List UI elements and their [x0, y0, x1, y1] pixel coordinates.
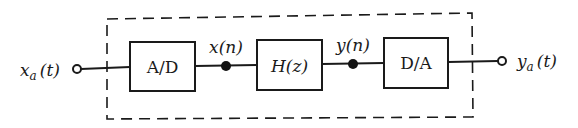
yn-signal-label: y(n): [335, 35, 370, 55]
output-wire: [448, 61, 498, 62]
output-signal-label: ya(t): [516, 51, 557, 74]
input-terminal: [73, 65, 81, 73]
xn-node: [221, 61, 231, 71]
output-terminal: [498, 57, 506, 65]
yn-node: [348, 59, 358, 69]
hz-block-label: H(z): [270, 56, 308, 76]
xn-signal-label: x(n): [209, 37, 243, 57]
dsp-block-diagram: xa(t) A/D x(n) H(z) y(n) D/A ya(t): [0, 0, 578, 128]
input-signal-label: xa(t): [20, 60, 60, 83]
da-block-label: D/A: [400, 53, 432, 73]
input-wire: [81, 67, 130, 69]
ad-block-label: A/D: [146, 57, 179, 77]
